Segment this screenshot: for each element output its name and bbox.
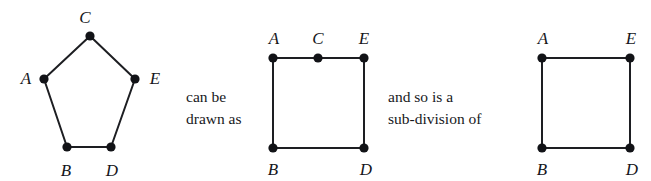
graph-vertex-A bbox=[537, 53, 546, 62]
vertex-label-A: A bbox=[21, 70, 31, 87]
graph-vertex-E bbox=[625, 53, 634, 62]
vertex-label-C: C bbox=[312, 30, 323, 47]
vertex-label-D: D bbox=[360, 161, 372, 178]
graph-edge-A-C bbox=[44, 36, 90, 79]
graph-vertex-A bbox=[268, 53, 277, 62]
graph-vertex-B bbox=[537, 143, 546, 152]
graph-vertex-E bbox=[130, 74, 139, 83]
vertex-label-C: C bbox=[79, 9, 90, 26]
graph-vertex-D bbox=[625, 143, 634, 152]
graph-subdivision-figure: CAEBDACEBDAEBD can bedrawn asand so is a… bbox=[0, 0, 651, 181]
vertex-label-B: B bbox=[61, 162, 71, 179]
connector-line-1: can be bbox=[186, 86, 242, 108]
vertex-label-A: A bbox=[269, 30, 279, 47]
graph-vertex-C bbox=[313, 53, 322, 62]
graph-vertex-D bbox=[106, 142, 115, 151]
vertex-label-D: D bbox=[106, 162, 118, 179]
graph-vertex-D bbox=[359, 143, 368, 152]
vertex-label-D: D bbox=[626, 161, 638, 178]
connector-line-2: sub-division of bbox=[388, 108, 481, 130]
vertex-label-B: B bbox=[537, 161, 547, 178]
graph-vertex-B bbox=[268, 143, 277, 152]
graph-edge-B-A bbox=[44, 79, 67, 147]
vertex-label-E: E bbox=[626, 30, 636, 47]
vertex-label-B: B bbox=[268, 161, 278, 178]
vertex-label-E: E bbox=[150, 70, 160, 87]
graph-vertex-B bbox=[62, 142, 71, 151]
vertex-label-A: A bbox=[538, 30, 548, 47]
pentagon-graph bbox=[39, 31, 139, 151]
graph-vertex-C bbox=[85, 31, 94, 40]
connector-line-2: drawn as bbox=[186, 108, 242, 130]
connector-text-and-so-is-a-sub-division-of: and so is asub-division of bbox=[388, 86, 481, 130]
square-with-subdivision-vertex-graph bbox=[268, 53, 368, 152]
graph-diagram-canvas bbox=[0, 0, 651, 181]
graph-vertex-A bbox=[39, 74, 48, 83]
graph-vertex-E bbox=[359, 53, 368, 62]
vertex-label-E: E bbox=[359, 30, 369, 47]
connector-text-can-be-drawn-as: can bedrawn as bbox=[186, 86, 242, 130]
connector-line-1: and so is a bbox=[388, 86, 481, 108]
graph-edge-C-E bbox=[90, 36, 135, 79]
square-graph bbox=[537, 53, 634, 152]
graph-edge-E-D bbox=[111, 79, 135, 147]
